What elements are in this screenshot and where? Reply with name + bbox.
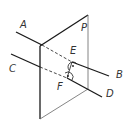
label-a: A — [19, 19, 27, 30]
geometry-diagram: A B C D E F P — [0, 0, 137, 130]
label-p: P — [81, 22, 88, 33]
label-d: D — [106, 88, 114, 99]
label-c: C — [9, 63, 16, 74]
label-e: E — [70, 45, 77, 56]
right-angle-marker-e — [68, 62, 77, 70]
label-b: B — [116, 69, 123, 80]
line-ab — [16, 32, 109, 76]
label-f: F — [57, 81, 63, 92]
